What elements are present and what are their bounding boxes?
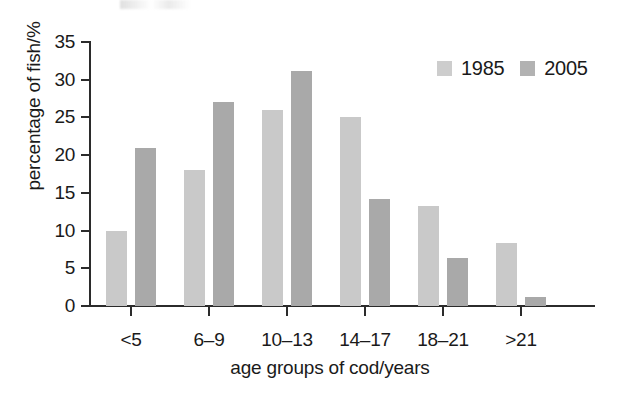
bar-1985->21 bbox=[496, 243, 517, 306]
legend-label-1985: 1985 bbox=[461, 58, 504, 78]
x-axis-tick bbox=[130, 307, 132, 316]
bar-2005-<5 bbox=[135, 148, 156, 306]
legend-swatch-2005-icon bbox=[520, 61, 535, 76]
y-axis-tick-label: 15 bbox=[41, 183, 75, 202]
bar-2005-10–13 bbox=[291, 71, 312, 306]
y-axis-tick-label: 30 bbox=[41, 70, 75, 89]
bar-2005->21 bbox=[525, 297, 546, 306]
legend-swatch-1985-icon bbox=[437, 61, 452, 76]
plot-area bbox=[90, 42, 595, 306]
legend-item-1985[interactable]: 1985 bbox=[437, 58, 504, 78]
bar-1985-14–17 bbox=[340, 117, 361, 306]
y-axis-tick bbox=[81, 154, 90, 156]
y-axis-tick bbox=[81, 230, 90, 232]
x-axis-tick bbox=[364, 307, 366, 316]
bar-1985-<5 bbox=[106, 231, 127, 306]
bar-2005-14–17 bbox=[369, 199, 390, 306]
y-axis-tick bbox=[81, 79, 90, 81]
legend-label-2005: 2005 bbox=[544, 58, 587, 78]
y-axis-tick bbox=[81, 116, 90, 118]
x-axis-tick-label: 10–13 bbox=[244, 330, 330, 350]
x-axis-tick-label: 6–9 bbox=[166, 330, 252, 350]
y-axis-tick-label: 5 bbox=[41, 258, 75, 277]
chart-legend: 1985 2005 bbox=[437, 58, 588, 78]
bar-1985-18–21 bbox=[418, 206, 439, 306]
x-axis-tick bbox=[520, 307, 522, 316]
y-axis-tick-label: 20 bbox=[41, 145, 75, 164]
x-axis-tick-label: <5 bbox=[88, 330, 174, 350]
bar-chart-figure: percentage of fish/% 05101520253035<56–9… bbox=[0, 0, 622, 393]
x-axis-tick-label: 18–21 bbox=[400, 330, 486, 350]
y-axis-tick-label: 35 bbox=[41, 32, 75, 51]
y-axis-tick-label: 0 bbox=[41, 296, 75, 315]
x-axis-tick bbox=[208, 307, 210, 316]
x-axis-title: age groups of cod/years bbox=[90, 358, 570, 378]
legend-item-2005[interactable]: 2005 bbox=[520, 58, 587, 78]
y-axis-tick bbox=[81, 267, 90, 269]
x-axis-tick-label: 14–17 bbox=[322, 330, 408, 350]
y-axis-tick-label: 10 bbox=[41, 221, 75, 240]
bar-2005-6–9 bbox=[213, 102, 234, 306]
bar-2005-18–21 bbox=[447, 258, 468, 306]
x-axis-tick-label: >21 bbox=[478, 330, 564, 350]
y-axis-tick bbox=[81, 305, 90, 307]
bar-1985-6–9 bbox=[184, 170, 205, 306]
y-axis-tick-label: 25 bbox=[41, 107, 75, 126]
x-axis-tick bbox=[286, 307, 288, 316]
y-axis-tick bbox=[81, 192, 90, 194]
bar-1985-10–13 bbox=[262, 110, 283, 306]
x-axis-tick bbox=[442, 307, 444, 316]
y-axis-tick bbox=[81, 41, 90, 43]
